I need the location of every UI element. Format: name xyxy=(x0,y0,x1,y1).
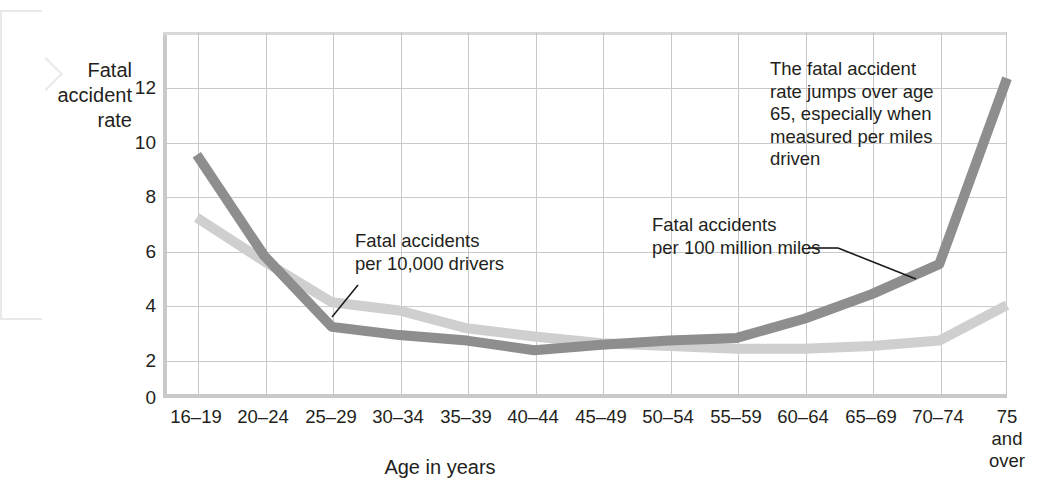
y-tick-2: 2 xyxy=(120,350,156,372)
y-tick-4: 4 xyxy=(120,295,156,317)
gridline-y-4 xyxy=(163,306,1007,307)
x-tick-16-19: 16–19 xyxy=(162,406,230,428)
x-tick-70-74: 70–74 xyxy=(904,406,972,428)
y-tick-12: 12 xyxy=(120,77,156,99)
x-tick-35-39: 35–39 xyxy=(432,406,500,428)
page-edge-artifact xyxy=(0,10,42,320)
x-tick-30-34: 30–34 xyxy=(364,406,432,428)
gridline-x-2 xyxy=(266,32,267,398)
gridline-x-3 xyxy=(333,32,334,398)
x-tick-60-64: 60–64 xyxy=(769,406,837,428)
x-tick-55-59: 55–59 xyxy=(702,406,770,428)
gridline-x-5 xyxy=(468,32,469,398)
annotation-per-10000-drivers: Fatal accidents per 10,000 drivers xyxy=(355,230,555,275)
plot-top-edge xyxy=(163,32,1007,35)
gridline-y-6 xyxy=(163,252,1007,253)
x-tick-25-29: 25–29 xyxy=(297,406,365,428)
x-tick-65-69: 65–69 xyxy=(837,406,905,428)
x-tick-20-24: 20–24 xyxy=(229,406,297,428)
chart-page: Fatal accident rate 12 10 8 6 4 2 0 16–1… xyxy=(0,0,1051,504)
y-tick-8: 8 xyxy=(120,186,156,208)
gridline-y-8 xyxy=(163,197,1007,198)
x-tick-45-49: 45–49 xyxy=(567,406,635,428)
gridline-y-2 xyxy=(163,361,1007,362)
y-tick-10: 10 xyxy=(120,132,156,154)
gridline-x-4 xyxy=(401,32,402,398)
y-tick-0: 0 xyxy=(120,387,156,409)
annotation-age-65-jump: The fatal accident rate jumps over age 6… xyxy=(770,58,988,171)
y-tick-6: 6 xyxy=(120,241,156,263)
gridline-x-6 xyxy=(536,32,537,398)
x-axis-title: Age in years xyxy=(0,456,880,479)
gridline-x-7 xyxy=(603,32,604,398)
x-tick-50-54: 50–54 xyxy=(634,406,702,428)
annotation-per-100-million-miles: Fatal accidents per 100 million miles xyxy=(652,214,862,259)
y-axis-tick-group: 12 10 8 6 4 2 0 xyxy=(112,32,156,398)
x-tick-40-44: 40–44 xyxy=(499,406,567,428)
x-tick-75-and-over: 75 and over xyxy=(975,406,1039,472)
gridline-x-1 xyxy=(198,32,199,398)
